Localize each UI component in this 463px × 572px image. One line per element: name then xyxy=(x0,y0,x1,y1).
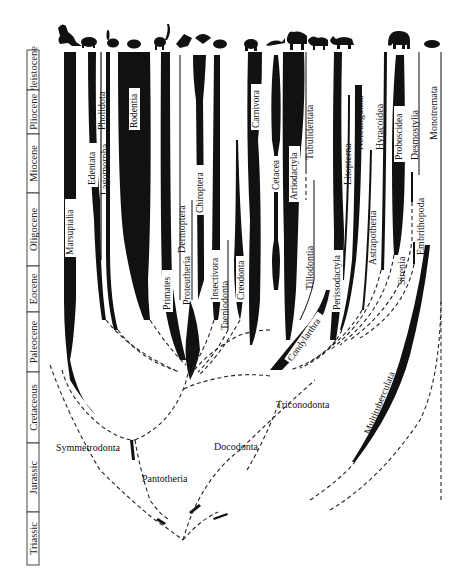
armadillo-icon xyxy=(81,37,97,48)
label-tillodontia: Tillodontia xyxy=(304,245,315,290)
dolphin-icon xyxy=(266,38,285,46)
period-label-jurassic: Jurassic xyxy=(28,461,39,495)
label-tubulidentata: Tubulidentata xyxy=(304,104,315,160)
label-proboscidea: Proboscidea xyxy=(394,113,404,160)
bat-icon xyxy=(176,34,192,48)
animal-silhouettes xyxy=(58,24,440,51)
pangolin-icon xyxy=(195,34,211,44)
label-astrapotheria: Astrapotheria xyxy=(367,210,378,265)
label-primates: Primates xyxy=(162,276,172,310)
rabbit-icon xyxy=(107,30,120,48)
label-desmostylia: Desmostylia xyxy=(409,109,420,160)
horse-icon xyxy=(308,36,328,50)
label-pantotheria: Pantotheria xyxy=(142,473,188,484)
label-hyracoidea: Hyracoidea xyxy=(374,103,385,150)
label-proteutheria: Proteutheria xyxy=(181,256,192,305)
label-triconodonta: Triconodonta xyxy=(276,399,330,410)
period-label-cretaceous: Cretaceous xyxy=(28,384,39,431)
period-label-oligocene: Oligocene xyxy=(28,208,39,251)
label-chiroptera: Chiroptera xyxy=(195,172,205,213)
label-notoungulata: Notoungulata xyxy=(354,95,365,150)
label-symmetrodonta: Symmetrodonta xyxy=(56,442,120,453)
platypus-icon xyxy=(424,40,440,48)
label-rodentia: Rodentia xyxy=(129,93,139,128)
label-litopterna: Litopterna xyxy=(342,143,353,185)
label-sirenia: Sirenia xyxy=(396,256,407,285)
period-label-triassic: Triassic xyxy=(28,522,39,555)
phylogeny-figure: PleistocenePlioceneMioceneOligoceneEocen… xyxy=(0,0,463,572)
early-lineage-labels: Triconodonta Docodonta Symmetrodonta Pan… xyxy=(56,399,330,484)
rodent-icon xyxy=(127,40,141,49)
label-marsupialia: Marsupialia xyxy=(65,209,75,255)
period-label-pleistocene: Pleistocene xyxy=(28,46,39,94)
bear-icon xyxy=(244,39,258,51)
label-monotremata: Monotremata xyxy=(428,86,439,140)
hedgehog-icon xyxy=(213,40,227,49)
label-carnivora: Carnivora xyxy=(251,89,261,128)
label-taeniodonta: Taeniodonta xyxy=(219,280,230,330)
rhinoceros-icon xyxy=(330,36,354,49)
period-label-eocene: Eocene xyxy=(28,273,39,304)
label-artiodactyla: Artiodactyla xyxy=(289,152,299,200)
period-label-miocene: Miocene xyxy=(28,145,39,182)
label-pholidota: Pholidota xyxy=(96,91,107,130)
label-cetacea: Cetacea xyxy=(271,159,281,190)
kangaroo-icon xyxy=(58,24,82,46)
period-label-paleocene: Paleocene xyxy=(28,320,39,363)
label-lagomorpha: Lagomorpha xyxy=(99,143,110,195)
label-dermoptera: Dermoptera xyxy=(176,205,187,253)
label-edentata: Edentata xyxy=(87,151,97,185)
label-creodonta: Creodonta xyxy=(236,260,246,300)
label-docodonta: Docodonta xyxy=(214,441,258,452)
time-scale-column: PleistocenePlioceneMioceneOligoceneEocen… xyxy=(27,46,39,565)
period-label-pliocene: Pliocene xyxy=(28,94,39,130)
bison-icon xyxy=(287,32,307,51)
label-embrithopoda: Embrithopoda xyxy=(415,197,426,255)
elephant-icon xyxy=(388,31,410,49)
lemur-icon xyxy=(154,24,170,50)
label-perissodactyla: Perissodactyla xyxy=(332,254,342,310)
